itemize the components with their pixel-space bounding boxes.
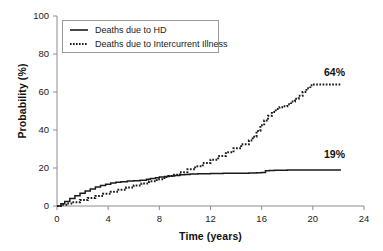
x-tick-label: 20 [301,213,325,224]
legend-label-intercurrent: Deaths due to Intercurrent Illness [95,39,228,49]
y-axis-title: Probability (%) [16,41,28,161]
legend-swatch-solid-icon [69,25,89,35]
series-line-0 [57,170,341,206]
x-axis-title: Time (years) [57,230,364,242]
x-tick-label: 12 [199,213,223,224]
legend-swatch-dotted-icon [69,39,89,49]
cumulative-incidence-chart: 020406080100 04812162024 Probability (%)… [0,0,383,251]
x-tick-label: 16 [250,213,274,224]
series-line-1 [57,84,341,206]
annotation-upper-endpoint: 64% [324,66,345,78]
y-tick-label: 0 [23,200,49,211]
y-tick-label: 100 [23,10,49,21]
y-tick-label: 20 [23,162,49,173]
legend: Deaths due to HD Deaths due to Intercurr… [62,20,219,53]
legend-entry-hd: Deaths due to HD [69,24,167,36]
x-tick-label: 0 [45,213,69,224]
legend-label-hd: Deaths due to HD [95,25,167,35]
legend-entry-intercurrent: Deaths due to Intercurrent Illness [69,38,228,50]
data-series-layer [57,84,341,206]
annotation-lower-endpoint: 19% [324,148,345,160]
x-tick-label: 8 [147,213,171,224]
x-tick-label: 24 [352,213,376,224]
x-tick-label: 4 [96,213,120,224]
